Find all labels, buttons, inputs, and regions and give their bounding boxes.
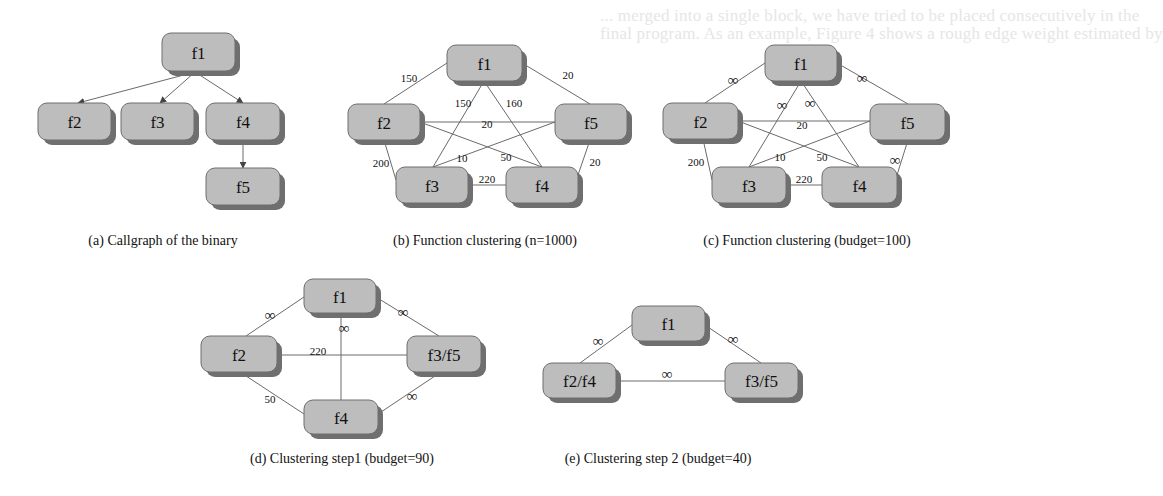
- node-label: f1: [191, 44, 205, 63]
- node-label: f3: [425, 177, 439, 196]
- edge-weight-label: 200: [373, 157, 390, 169]
- edge-weight-label: ∞: [593, 333, 604, 349]
- edge-weight-label: ∞: [339, 320, 350, 336]
- edge: [703, 139, 712, 180]
- edge-weight-label: 220: [310, 345, 327, 357]
- edge: [522, 63, 590, 104]
- edge-weight-label: 50: [265, 393, 277, 405]
- edge-weight-label: ∞: [890, 152, 901, 168]
- node-f2f4: f2/f4: [543, 363, 621, 403]
- node-f3f5: f3/f5: [725, 363, 803, 403]
- node-label: f3/f5: [427, 346, 460, 365]
- node-f4: f4: [304, 400, 383, 439]
- node-label: f3/f5: [745, 372, 778, 391]
- panel-d: f1f2f3/f5f4∞∞∞22050∞(d) Clustering step1…: [201, 279, 486, 467]
- node-label: f1: [333, 288, 347, 307]
- edge-weight-label: 220: [796, 173, 813, 185]
- node-label: f1: [661, 315, 675, 334]
- edge-weight-label: 200: [688, 156, 705, 168]
- edge-weight-label: 150: [401, 72, 418, 84]
- panel-a: f1f2f3f4f5(a) Callgraph of the binary: [38, 33, 285, 249]
- node-label: f2: [67, 113, 81, 132]
- node-label: f3: [150, 113, 164, 132]
- panel-caption: (e) Clustering step 2 (budget=40): [565, 451, 752, 467]
- edge: [433, 122, 555, 167]
- panel-caption: (d) Clustering step1 (budget=90): [250, 451, 434, 467]
- edge: [837, 63, 908, 104]
- node-label: f5: [900, 114, 914, 133]
- edge-weight-label: 20: [797, 119, 809, 131]
- node-f3: f3: [712, 167, 791, 208]
- edge-weight-label: ∞: [407, 388, 418, 404]
- figure-panels: f1f2f3f4f5(a) Callgraph of the binaryf1f…: [38, 33, 950, 467]
- edge-weight-label: 10: [457, 152, 469, 164]
- edge-weight-label: 220: [479, 173, 496, 185]
- node-f3: f3: [121, 103, 199, 145]
- edge: [801, 81, 859, 167]
- node-f1: f1: [162, 33, 240, 76]
- edge: [580, 325, 632, 363]
- edge-weight-label: 160: [506, 97, 523, 109]
- panel-b: f1f2f5f3f41502015016020501020020220(b) F…: [348, 45, 632, 249]
- edge-weight-label: ∞: [857, 70, 868, 86]
- node-label: f4: [852, 177, 867, 196]
- node-label: f1: [477, 55, 491, 74]
- node-f5: f5: [206, 168, 285, 210]
- edge-weight-label: 10: [775, 151, 787, 163]
- node-label: f2: [232, 346, 246, 365]
- edge-weight-label: ∞: [777, 97, 788, 113]
- node-label: f4: [236, 113, 251, 132]
- node-f4: f4: [506, 167, 583, 208]
- node-label: f2: [377, 114, 391, 133]
- node-f1: f1: [447, 45, 527, 86]
- node-f5: f5: [870, 104, 950, 145]
- node-label: f4: [334, 409, 349, 428]
- node-f2: f2: [38, 103, 116, 145]
- edge: [578, 140, 590, 175]
- node-f4: f4: [206, 103, 285, 145]
- node-label: f5: [584, 114, 598, 133]
- edge-weight-label: 20: [563, 69, 575, 81]
- node-label: f5: [236, 178, 250, 197]
- panel-caption: (b) Function clustering (n=1000): [393, 233, 577, 249]
- edge-weight-label: ∞: [398, 304, 409, 320]
- edge-weight-label: ∞: [265, 307, 276, 323]
- edge-weight-label: 20: [590, 156, 602, 168]
- edge-weight-label: 50: [817, 151, 829, 163]
- panel-caption: (a) Callgraph of the binary: [88, 233, 237, 249]
- edge: [484, 81, 542, 167]
- node-f2: f2: [201, 336, 282, 377]
- node-f5: f5: [555, 104, 632, 145]
- panel-c: f1f2f5f3f4∞∞∞∞205010200∞220(c) Function …: [663, 45, 950, 249]
- node-label: f1: [794, 55, 808, 74]
- node-f4: f4: [822, 167, 902, 208]
- edge-weight-label: ∞: [662, 366, 673, 382]
- node-label: f4: [535, 177, 550, 196]
- edge: [749, 121, 870, 167]
- edge: [195, 72, 243, 103]
- node-f3f5: f3/f5: [407, 336, 486, 377]
- node-f1: f1: [304, 279, 381, 318]
- panel-caption: (c) Function clustering (budget=100): [703, 233, 911, 249]
- node-f2: f2: [663, 103, 743, 144]
- node-label: f3: [742, 177, 756, 196]
- edge-weight-label: 20: [482, 118, 494, 130]
- edge-weight-label: 50: [501, 151, 513, 163]
- node-f1: f1: [632, 306, 710, 346]
- node-label: f2/f4: [563, 372, 597, 391]
- node-f3: f3: [396, 167, 473, 208]
- edge-weight-label: ∞: [728, 331, 739, 347]
- node-label: f2: [693, 113, 707, 132]
- node-f1: f1: [765, 45, 842, 86]
- edge-weight-label: ∞: [805, 95, 816, 111]
- edge-weight-label: 150: [455, 97, 472, 109]
- node-f2: f2: [348, 104, 425, 145]
- edge-weight-label: ∞: [728, 72, 739, 88]
- panel-e: f1f2/f4f3/f5∞∞∞(e) Clustering step 2 (bu…: [543, 306, 803, 467]
